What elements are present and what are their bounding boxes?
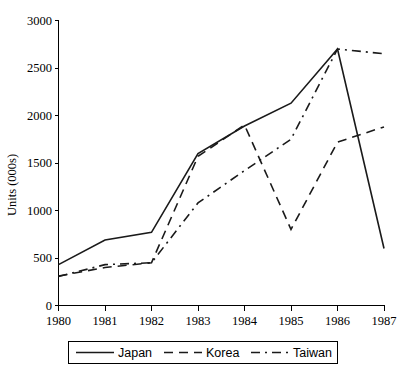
series-line-japan [59, 49, 385, 265]
y-tick-label-0: 0 [46, 299, 52, 313]
chart-page: Units (000s) 3000 2500 2000 1500 1000 50… [0, 0, 406, 368]
line-chart: Units (000s) 3000 2500 2000 1500 1000 50… [0, 0, 406, 368]
y-tick-label-500: 500 [33, 251, 52, 265]
x-tick-label-1987: 1987 [372, 314, 397, 328]
y-tick-label-1500: 1500 [27, 156, 52, 170]
series-line-taiwan [59, 49, 385, 277]
x-tick-label-1980: 1980 [46, 314, 71, 328]
x-tick-label-1984: 1984 [232, 314, 258, 328]
y-tick-label-2000: 2000 [27, 109, 52, 123]
y-tick-label-2500: 2500 [27, 61, 52, 75]
y-tick-label-3000: 3000 [27, 14, 52, 28]
legend-label-korea: Korea [206, 346, 239, 360]
y-axis-title: Units (000s) [5, 154, 19, 216]
legend-label-japan: Japan [118, 346, 152, 360]
x-tick-label-1983: 1983 [186, 314, 211, 328]
x-tick-label-1986: 1986 [325, 314, 350, 328]
x-tick-label-1981: 1981 [93, 314, 118, 328]
legend-label-taiwan: Taiwan [293, 346, 332, 360]
x-tick-label-1985: 1985 [279, 314, 304, 328]
series-line-korea [59, 125, 385, 276]
x-tick-label-1982: 1982 [139, 314, 164, 328]
y-tick-label-1000: 1000 [27, 204, 52, 218]
